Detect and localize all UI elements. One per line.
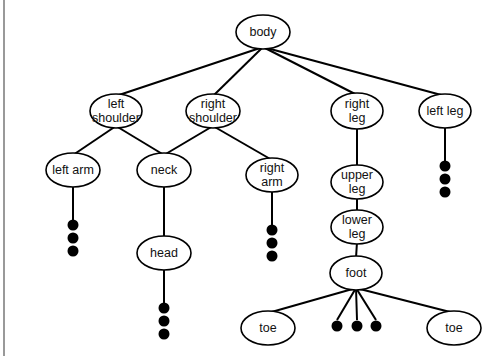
node-toe-right: toe: [427, 311, 481, 345]
edge-right-shoulder-to-right-arm: [213, 126, 272, 160]
ellipsis-dot: [332, 321, 343, 332]
ellipsis-dot: [159, 316, 170, 327]
node-label: right: [201, 97, 226, 111]
ellipsis-dot: [267, 251, 278, 262]
node-right-leg: rightleg: [331, 93, 383, 129]
ellipsis-dot: [159, 303, 170, 314]
node-label: right: [260, 161, 285, 175]
edge-left-shoulder-to-neck: [116, 126, 164, 155]
ellipsis-dot: [371, 321, 382, 332]
ellipsis-dot: [352, 321, 363, 332]
ellipsis-dot: [159, 329, 170, 340]
ellipsis-dot: [440, 161, 451, 172]
node-left-leg: left leg: [419, 94, 471, 128]
node-label: leg: [349, 111, 366, 125]
node-label: foot: [346, 266, 367, 280]
node-label: shoulder: [92, 111, 140, 125]
node-left-shoulder: leftshoulder: [90, 94, 142, 128]
node-upper-leg: upperleg: [331, 165, 383, 199]
node-label: neck: [151, 163, 178, 177]
node-label: arm: [261, 175, 283, 189]
continuation-line-foot: [356, 288, 357, 320]
tree-diagram: bodyleftshoulderrightshoulderrightleglef…: [0, 0, 489, 362]
edge-right-shoulder-to-neck: [164, 126, 213, 155]
node-label: shoulder: [189, 111, 237, 125]
node-left-arm: left arm: [46, 153, 100, 187]
edge-body-to-left-leg: [263, 47, 445, 96]
node-label: right: [345, 97, 370, 111]
node-neck: neck: [137, 153, 191, 187]
edge-body-to-right-leg: [263, 47, 357, 95]
node-right-arm: rightarm: [246, 158, 298, 192]
node-toe-left: toe: [241, 311, 295, 345]
node-label: left arm: [52, 163, 94, 177]
node-foot: foot: [330, 256, 382, 290]
node-label: left leg: [427, 104, 464, 118]
node-body: body: [236, 15, 290, 49]
node-label: left: [108, 97, 125, 111]
ellipsis-dot: [267, 238, 278, 249]
node-head: head: [137, 236, 191, 270]
node-label: toe: [445, 321, 462, 335]
ellipsis-dot: [267, 225, 278, 236]
ellipsis-dot: [440, 187, 451, 198]
node-label: leg: [349, 182, 366, 196]
node-label: leg: [349, 227, 366, 241]
node-label: toe: [259, 321, 276, 335]
node-label: lower: [342, 213, 372, 227]
edge-foot-to-toe-right: [356, 288, 454, 313]
ellipsis-dot: [440, 174, 451, 185]
ellipsis-dot: [68, 246, 79, 257]
ellipsis-dot: [68, 233, 79, 244]
edge-body-to-left-shoulder: [116, 47, 263, 96]
node-label: upper: [341, 168, 373, 182]
node-lower-leg: lowerleg: [331, 210, 383, 244]
node-right-shoulder: rightshoulder: [186, 94, 240, 128]
ellipsis-dot: [68, 220, 79, 231]
node-label: body: [249, 25, 277, 39]
edge-left-shoulder-to-left-arm: [73, 126, 116, 155]
node-label: head: [150, 246, 178, 260]
